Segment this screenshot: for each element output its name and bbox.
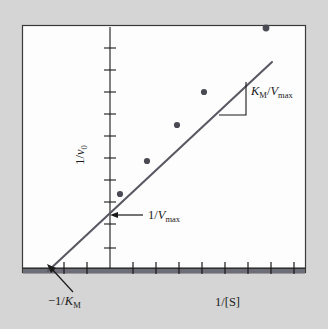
lineweaver-burk-figure: KM/Vmax 1/Vmax −1/KM 1/[S] 1/v0 [0, 0, 328, 329]
plot-panel [23, 26, 306, 273]
data-point [117, 191, 123, 197]
y-axis-label-subscript: 0 [79, 145, 89, 149]
x-intercept-prefix: −1/ [48, 294, 65, 308]
slope-vmax-subscript: max [278, 90, 293, 100]
y-intercept-subscript: max [165, 214, 180, 224]
y-axis-label-prefix: 1/ [73, 155, 87, 165]
data-point [201, 89, 207, 95]
plot-svg: KM/Vmax 1/Vmax −1/KM 1/[S] 1/v0 [0, 0, 328, 329]
data-point [144, 158, 150, 164]
x-axis-label: 1/[S] [215, 295, 240, 309]
y-intercept-prefix: 1/ [148, 208, 158, 222]
data-point [263, 25, 270, 32]
data-point [174, 122, 180, 128]
x-intercept-subscript: M [73, 300, 81, 310]
